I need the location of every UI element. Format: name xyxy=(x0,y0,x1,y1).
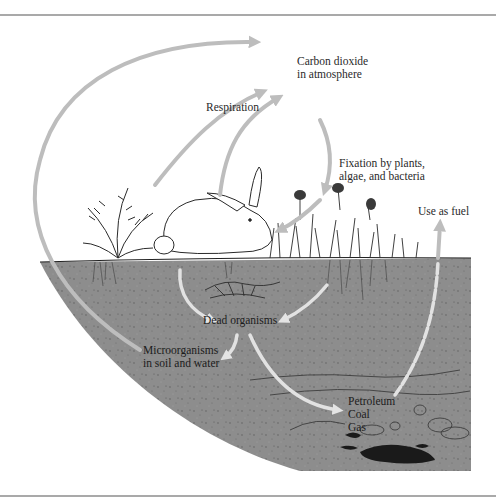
label-fossil-fuels: Petroleum Coal Gas xyxy=(348,395,395,434)
label-microorganisms: Microorganisms in soil and water xyxy=(143,344,219,370)
flower-heads xyxy=(294,183,376,210)
arrow-use-as-fuel-upper xyxy=(438,225,440,258)
carbon-cycle-diagram xyxy=(0,0,496,499)
label-use-as-fuel: Use as fuel xyxy=(418,205,469,218)
soil-layer xyxy=(40,258,471,471)
fern-illustration xyxy=(83,188,153,258)
arrow-fixation xyxy=(320,120,330,190)
label-carbon-dioxide: Carbon dioxide in atmosphere xyxy=(297,55,368,81)
label-respiration: Respiration xyxy=(206,101,259,114)
rabbit-illustration xyxy=(154,167,272,254)
label-dead-organisms: Dead organisms xyxy=(203,314,277,327)
label-fixation: Fixation by plants, algae, and bacteria xyxy=(339,157,425,183)
